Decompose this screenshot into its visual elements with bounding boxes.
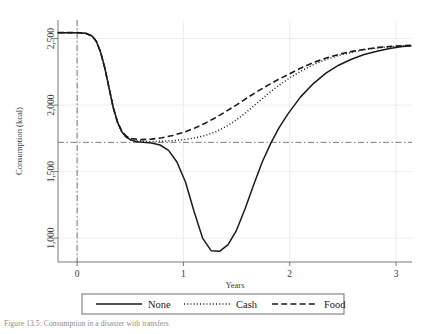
- legend-label-none: None: [148, 299, 171, 310]
- y-tick-label: 1,000: [46, 227, 56, 249]
- x-tick-label: 1: [181, 269, 186, 279]
- series-line-food: [58, 33, 411, 140]
- y-axis-ticks: [54, 39, 58, 238]
- x-axis-ticks: [77, 262, 396, 266]
- x-axis-tick-labels: 0123: [75, 269, 399, 279]
- y-tick-label: 2,500: [46, 28, 56, 50]
- y-axis-tick-labels: 1,0001,5002,0002,500: [46, 28, 56, 249]
- legend-label-cash: Cash: [236, 299, 258, 310]
- y-tick-label: 1,500: [46, 161, 56, 183]
- chart-legend: NoneCashFood: [82, 294, 346, 314]
- chart-area: 1,0001,5002,0002,500 0123 Consumption (k…: [0, 0, 428, 318]
- legend-label-food: Food: [324, 299, 346, 310]
- x-axis-title: Years: [226, 280, 245, 290]
- x-tick-label: 2: [287, 269, 292, 279]
- series-line-cash: [58, 33, 411, 142]
- y-tick-label: 2,000: [46, 94, 56, 116]
- x-tick-label: 3: [394, 269, 399, 279]
- y-axis-title: Consumption (kcal): [14, 107, 24, 175]
- x-tick-label: 0: [75, 269, 80, 279]
- figure-caption: Figure 13.5: Consumption in a disaster w…: [4, 319, 424, 328]
- consumption-line-chart: 1,0001,5002,0002,500 0123 Consumption (k…: [0, 0, 428, 318]
- figure-container: 1,0001,5002,0002,500 0123 Consumption (k…: [0, 0, 428, 334]
